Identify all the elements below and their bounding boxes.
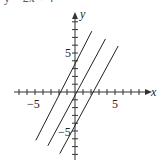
x-tick-label-neg5: −5 — [27, 97, 40, 111]
x-axis — [14, 89, 152, 95]
y-axis-label: y — [79, 7, 86, 21]
cut-equation-text: y = 2x + 4 — [4, 0, 54, 5]
graph-figure: y = 2x + 4 x y −5 5 5 −5 — [0, 0, 158, 160]
x-tick-label-5: 5 — [112, 97, 118, 111]
x-axis-label: x — [150, 85, 157, 99]
y-axis — [72, 12, 78, 160]
series-line-2 — [60, 46, 118, 154]
coordinate-plane: y = 2x + 4 x y −5 5 5 −5 — [0, 0, 158, 160]
y-axis-arrow-icon — [72, 12, 78, 19]
series-line-0 — [36, 31, 92, 140]
y-tick-label-5: 5 — [65, 46, 71, 60]
